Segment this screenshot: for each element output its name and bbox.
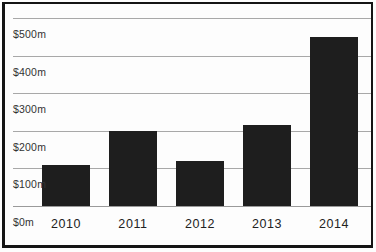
y-gridline-500 bbox=[13, 18, 371, 19]
bar-2011 bbox=[109, 131, 157, 206]
y-axis-tick-label: $400m bbox=[13, 67, 46, 78]
x-axis-year-label: 2013 bbox=[235, 217, 299, 231]
bar-2010 bbox=[42, 165, 90, 206]
bar-2014 bbox=[310, 37, 358, 206]
bar-chart: $500m$400m$300m$200m$100m$0m201020112012… bbox=[0, 0, 376, 252]
y-axis-tick-label: $300m bbox=[13, 104, 46, 115]
x-axis-year-label: 2014 bbox=[302, 217, 366, 231]
y-axis-tick-label: $200m bbox=[13, 142, 46, 153]
x-axis-year-label: 2011 bbox=[101, 217, 165, 231]
y-axis-tick-label: $0m bbox=[13, 217, 34, 228]
x-axis-year-label: 2012 bbox=[168, 217, 232, 231]
bar-2013 bbox=[243, 125, 291, 206]
y-gridline-0 bbox=[13, 206, 371, 207]
chart-frame: $500m$400m$300m$200m$100m$0m201020112012… bbox=[2, 2, 373, 248]
y-axis-tick-label: $100m bbox=[13, 179, 46, 190]
y-axis-tick-label: $500m bbox=[13, 29, 46, 40]
x-axis-year-label: 2010 bbox=[34, 217, 98, 231]
bar-2012 bbox=[176, 161, 224, 206]
